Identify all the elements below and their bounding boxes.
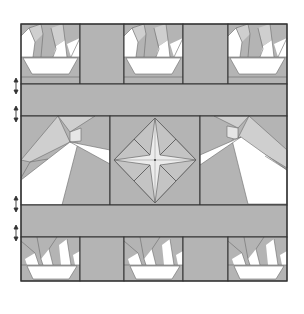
basket-block (124, 24, 183, 84)
double-arrow-icon (14, 196, 18, 212)
upper-sashing-strip (21, 84, 287, 116)
basket-block (21, 24, 80, 84)
middle-row (21, 116, 304, 205)
basket-block (124, 237, 183, 281)
top-row (21, 24, 287, 84)
double-arrow-icon (14, 78, 18, 94)
quilt-diagram (0, 0, 304, 314)
sashing-block (80, 237, 124, 281)
basket-block (228, 237, 287, 281)
lower-sashing-strip (21, 205, 287, 237)
beam-block-left (21, 116, 110, 205)
sashing-block (80, 24, 124, 84)
compass-star-block (110, 116, 200, 205)
basket-block (228, 24, 287, 84)
sashing-block (183, 237, 228, 281)
basket-block (21, 237, 80, 281)
sashing-block (183, 24, 228, 84)
double-arrow-icon (14, 106, 18, 122)
bottom-row (21, 237, 287, 281)
double-arrow-icon (14, 225, 18, 241)
beam-block-right-detail (200, 116, 287, 205)
